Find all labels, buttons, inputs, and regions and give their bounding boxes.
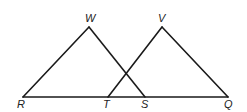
label-s: S — [141, 98, 149, 110]
segment-vq — [162, 27, 228, 97]
label-q: Q — [224, 98, 233, 110]
label-t: T — [103, 98, 111, 110]
label-w: W — [85, 12, 97, 24]
label-r: R — [17, 98, 25, 110]
segment-rw — [23, 27, 89, 97]
label-v: V — [158, 12, 167, 24]
geometry-diagram: W V R T S Q — [0, 0, 247, 112]
